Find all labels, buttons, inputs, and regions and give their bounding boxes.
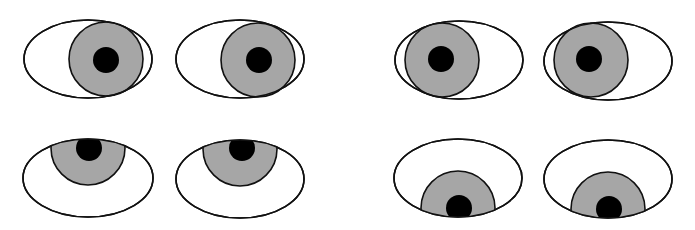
eye-directions-diagram bbox=[0, 0, 695, 230]
left-eye bbox=[395, 21, 523, 99]
eye-pairs bbox=[23, 20, 672, 230]
pupil-circle bbox=[576, 46, 602, 72]
eye-pair-looking-up bbox=[23, 111, 304, 218]
iris-group bbox=[203, 112, 277, 186]
iris-group bbox=[405, 23, 479, 97]
pupil-circle bbox=[428, 46, 454, 72]
eye-pair-looking-left bbox=[395, 21, 672, 100]
pupil-circle bbox=[246, 47, 272, 73]
right-eye bbox=[176, 20, 304, 98]
iris-group bbox=[221, 23, 295, 97]
right-eye bbox=[544, 140, 672, 230]
left-eye bbox=[23, 111, 153, 217]
iris-group bbox=[51, 111, 125, 185]
eye-pair-looking-right bbox=[24, 20, 304, 98]
left-eye bbox=[394, 139, 522, 230]
iris-group bbox=[69, 22, 143, 96]
pupil-circle bbox=[93, 47, 119, 73]
right-eye bbox=[544, 22, 672, 100]
pupil-circle bbox=[229, 135, 255, 161]
right-eye bbox=[176, 112, 304, 218]
eye-pair-looking-down bbox=[394, 139, 672, 230]
left-eye bbox=[24, 20, 152, 98]
iris-group bbox=[554, 23, 628, 97]
